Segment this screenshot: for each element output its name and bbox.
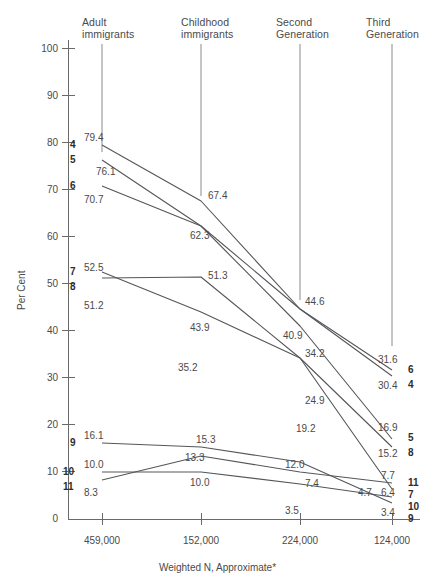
series-number-right-4: 4 (408, 379, 414, 390)
series-number-left-10: 10 (63, 466, 74, 477)
value-label-13-3: 13.3 (185, 452, 204, 463)
value-label-62-3: 62.3 (190, 230, 209, 241)
value-label-4-7: 4.7 (358, 487, 372, 498)
series-line-10 (102, 472, 392, 497)
value-label-70-7: 70.7 (84, 194, 103, 205)
value-label-12-0: 12.0 (285, 459, 304, 470)
series-number-left-5: 5 (70, 154, 76, 165)
value-label-34-2: 34.2 (305, 348, 324, 359)
value-label-7-4: 7.4 (305, 478, 319, 489)
value-label-8-3: 8.3 (84, 487, 98, 498)
series-number-right-9: 9 (408, 513, 414, 524)
series-number-left-8: 8 (70, 281, 76, 292)
value-label-10-0b: 10.0 (190, 477, 209, 488)
value-label-44-6: 44.6 (305, 296, 324, 307)
value-label-67-4: 67.4 (208, 190, 227, 201)
value-label-30-4: 30.4 (378, 380, 397, 391)
value-label-24-9: 24.9 (305, 395, 324, 406)
series-line-8 (102, 277, 392, 447)
value-label-7-7: 7.7 (381, 470, 395, 481)
series-line-7 (102, 272, 392, 489)
series-number-right-7: 7 (408, 489, 414, 500)
series-number-left-4: 4 (70, 139, 76, 150)
value-label-31-6: 31.6 (378, 354, 397, 365)
line-chart: Adult immigrants Childhood immigrants Se… (0, 0, 435, 583)
value-label-19-2: 19.2 (296, 423, 315, 434)
series-line-11 (102, 456, 392, 483)
value-label-16-1: 16.1 (84, 430, 103, 441)
series-number-left-7: 7 (70, 266, 76, 277)
value-label-35-2: 35.2 (178, 362, 197, 373)
value-label-51-2: 51.2 (84, 300, 103, 311)
series-number-left-9: 9 (70, 437, 76, 448)
value-label-3-5: 3.5 (285, 505, 299, 516)
value-label-43-9: 43.9 (190, 322, 209, 333)
value-label-51-3: 51.3 (208, 270, 227, 281)
value-label-15-3: 15.3 (196, 434, 215, 445)
value-label-52-5: 52.5 (84, 262, 103, 273)
value-label-15-2: 15.2 (378, 448, 397, 459)
value-label-40-9: 40.9 (283, 330, 302, 341)
series-number-right-10: 10 (408, 501, 419, 512)
value-label-10-0a: 10.0 (84, 459, 103, 470)
series-number-left-11: 11 (63, 481, 74, 492)
series-line-9 (102, 443, 392, 503)
value-label-79-4: 79.4 (84, 132, 103, 143)
value-label-16-9: 16.9 (378, 422, 397, 433)
series-number-right-6: 6 (408, 364, 414, 375)
series-line-5 (102, 160, 392, 439)
series-number-right-8: 8 (408, 447, 414, 458)
value-label-3-4: 3.4 (381, 507, 395, 518)
value-label-76-1: 76.1 (96, 166, 115, 177)
series-number-right-5: 5 (408, 432, 414, 443)
value-label-6-4: 6.4 (381, 487, 395, 498)
series-number-left-6: 6 (70, 180, 76, 191)
series-number-right-11: 11 (408, 477, 419, 488)
